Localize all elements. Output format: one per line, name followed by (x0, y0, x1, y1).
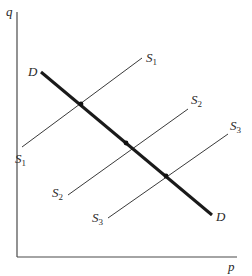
equilibrium-point-2 (124, 141, 129, 146)
equilibrium-point-1 (79, 102, 84, 107)
demand-label-end: D (215, 209, 226, 224)
demand-label-start: D (27, 64, 38, 79)
supply-demand-diagram: q p S1 S1 S2 S2 S3 S3 D D (0, 0, 252, 276)
s3-upper-label: S3 (230, 118, 242, 135)
equilibrium-point-3 (164, 174, 169, 179)
s2-lower-label: S2 (52, 185, 63, 202)
y-axis-label: q (6, 4, 13, 19)
diagram-canvas: q p S1 S1 S2 S2 S3 S3 D D (0, 0, 252, 276)
x-axis-label: p (227, 259, 235, 274)
s1-lower-label: S1 (15, 151, 26, 168)
s3-lower-label: S3 (92, 210, 104, 227)
s1-upper-label: S1 (146, 50, 157, 67)
s2-upper-label: S2 (191, 92, 202, 109)
supply-curve-s2 (68, 109, 188, 195)
